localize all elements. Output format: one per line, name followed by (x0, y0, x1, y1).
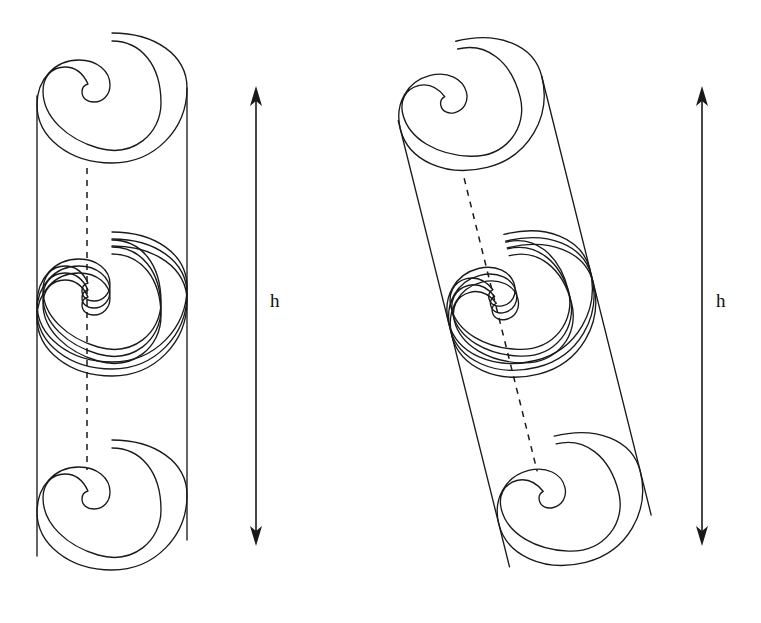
top-comma-cross-section (383, 23, 560, 185)
cylinder-right-wall (542, 76, 651, 515)
left-height-label: h (270, 290, 280, 311)
top-comma-cross-section (37, 33, 187, 163)
left-figure (37, 33, 187, 570)
bottom-comma-cross-section (37, 440, 187, 570)
right-height-measure: h (696, 86, 726, 546)
middle-comma-band (431, 216, 611, 392)
left-height-measure: h (250, 86, 280, 546)
middle-comma-band (37, 232, 187, 376)
diagram-svg: h h (0, 0, 761, 623)
right-figure (383, 23, 658, 580)
figure-canvas: h h (0, 0, 761, 623)
right-height-label: h (716, 290, 726, 311)
bottom-comma-cross-section (481, 418, 658, 580)
